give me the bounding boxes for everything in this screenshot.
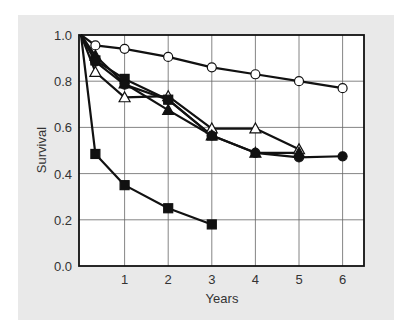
circle-marker [91,41,100,50]
circle-marker [251,148,260,157]
circle-marker [295,77,304,86]
circle-marker [164,95,173,104]
y-tick-label: 0.0 [54,259,72,274]
x-tick-label: 4 [252,272,259,287]
circle-marker [120,80,129,89]
y-tick-label: 0.8 [54,74,72,89]
x-axis-label: Years [206,291,239,306]
circle-marker [207,131,216,140]
survival-chart: 0.00.20.40.60.81.0 123456 Years Survival [0,0,409,333]
circle-marker [295,153,304,162]
x-tick-label: 5 [295,272,302,287]
square-marker [207,220,216,229]
y-axis-label: Survival [34,127,49,173]
square-marker [164,204,173,213]
x-tick-label: 1 [121,272,128,287]
y-tick-label: 0.4 [54,167,72,182]
circle-marker [251,70,260,79]
x-tick-labels: 123456 [121,272,346,287]
circle-marker [338,84,347,93]
circle-marker [207,63,216,72]
x-tick-label: 2 [165,272,172,287]
square-marker [120,181,129,190]
circle-marker [91,57,100,66]
y-tick-label: 1.0 [54,28,72,43]
circle-marker [338,152,347,161]
circle-marker [120,44,129,53]
x-tick-label: 3 [208,272,215,287]
y-tick-label: 0.6 [54,120,72,135]
y-tick-labels: 0.00.20.40.60.81.0 [54,28,72,274]
square-marker [91,149,100,158]
y-tick-label: 0.2 [54,213,72,228]
circle-marker [164,52,173,61]
x-tick-label: 6 [339,272,346,287]
